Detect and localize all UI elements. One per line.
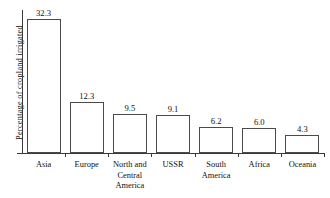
bar-value-label: 6.0 — [242, 117, 276, 127]
bar-north-and-central-america: 9.5 — [113, 114, 147, 153]
plot-area: 32.312.39.59.16.26.04.3 — [22, 10, 324, 153]
category-label: Africa — [238, 160, 281, 171]
y-axis-base-tick — [17, 153, 22, 154]
bar-value-label: 4.3 — [285, 124, 319, 134]
category-label: Asia — [22, 160, 65, 171]
category-label-line: USSR — [151, 160, 194, 171]
bar-value-label: 9.1 — [156, 104, 190, 114]
x-axis-line — [22, 153, 324, 154]
x-axis-tick — [324, 153, 325, 157]
bar-rect — [285, 135, 319, 153]
bar-value-label: 9.5 — [113, 103, 147, 113]
category-label-line: America — [195, 171, 238, 182]
category-label-line: North and — [108, 160, 151, 171]
bar-rect — [156, 115, 190, 153]
x-axis-tick — [238, 153, 239, 157]
bar-value-label: 12.3 — [70, 91, 104, 101]
category-label-line: America — [108, 181, 151, 192]
bar-asia: 32.3 — [27, 19, 61, 153]
category-label: Oceania — [281, 160, 324, 171]
bar-rect — [27, 19, 61, 153]
x-axis-tick — [151, 153, 152, 157]
category-label-line: Oceania — [281, 160, 324, 171]
bar-value-label: 32.3 — [27, 8, 61, 18]
category-label: North andCentralAmerica — [108, 160, 151, 192]
category-label: USSR — [151, 160, 194, 171]
bar-rect — [70, 102, 104, 153]
bar-value-label: 6.2 — [199, 116, 233, 126]
category-label-line: Europe — [65, 160, 108, 171]
category-label: SouthAmerica — [195, 160, 238, 181]
x-axis-tick — [65, 153, 66, 157]
bar-rect — [113, 114, 147, 153]
bar-ussr: 9.1 — [156, 115, 190, 153]
category-label-line: Central — [108, 171, 151, 182]
x-axis-tick — [195, 153, 196, 157]
bar-south-america: 6.2 — [199, 127, 233, 153]
category-label: Europe — [65, 160, 108, 171]
bar-rect — [199, 127, 233, 153]
bar-chart-figure: Percentage of cropland irrigated 32.312.… — [0, 0, 330, 198]
bar-africa: 6.0 — [242, 128, 276, 153]
x-axis-tick — [108, 153, 109, 157]
bar-europe: 12.3 — [70, 102, 104, 153]
bar-oceania: 4.3 — [285, 135, 319, 153]
category-label-line: Asia — [22, 160, 65, 171]
bar-rect — [242, 128, 276, 153]
x-axis-tick — [281, 153, 282, 157]
category-label-line: Africa — [238, 160, 281, 171]
category-label-line: South — [195, 160, 238, 171]
